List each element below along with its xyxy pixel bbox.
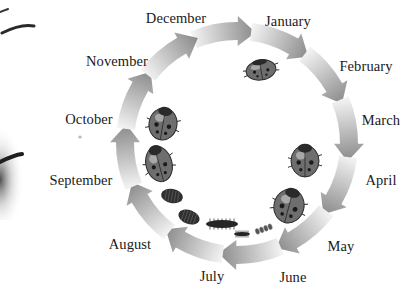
month-label-october: October bbox=[65, 111, 112, 128]
month-label-february: February bbox=[339, 58, 392, 75]
month-label-december: December bbox=[146, 10, 206, 27]
month-label-august: August bbox=[109, 236, 152, 253]
larva-small-icon bbox=[234, 231, 250, 238]
month-label-may: May bbox=[328, 238, 355, 255]
life-cycle-diagram: DecemberJanuaryFebruaryMarchAprilMayJune… bbox=[0, 0, 408, 292]
cycle-arrow-october bbox=[117, 72, 153, 130]
month-label-september: September bbox=[50, 172, 113, 189]
cycle-arrow-september bbox=[110, 124, 142, 189]
adult-emerging-icon bbox=[139, 141, 180, 185]
month-arrows bbox=[110, 16, 364, 270]
month-label-june: June bbox=[280, 269, 307, 286]
month-label-april: April bbox=[365, 172, 396, 189]
adult-autumn-icon bbox=[143, 104, 182, 143]
month-label-november: November bbox=[86, 53, 148, 70]
month-label-january: January bbox=[265, 13, 311, 30]
pupa-1-icon bbox=[176, 207, 201, 228]
cycle-arrow-june bbox=[218, 238, 283, 270]
cycle-arrow-march bbox=[332, 96, 364, 161]
cycle-arrow-july bbox=[166, 227, 224, 263]
cycle-arrow-february bbox=[299, 47, 347, 104]
eggs-icon bbox=[255, 223, 273, 235]
adult-spring-icon bbox=[288, 144, 322, 177]
month-label-march: March bbox=[362, 112, 400, 129]
ladybug-stages bbox=[139, 56, 322, 237]
cycle-arrow-november bbox=[141, 33, 198, 81]
month-label-july: July bbox=[200, 268, 225, 285]
adult-overwintering-icon bbox=[241, 56, 280, 83]
pupa-2-icon bbox=[160, 187, 184, 205]
adult-mating-icon bbox=[267, 184, 311, 227]
larva-large-icon bbox=[206, 219, 238, 230]
cycle-arrow-april bbox=[321, 156, 357, 214]
